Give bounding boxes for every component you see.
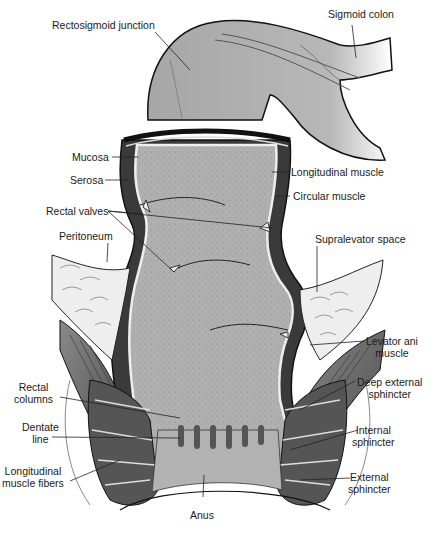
label-mucosa: Mucosa — [72, 151, 109, 163]
label-external-sphincter: External sphincter — [348, 471, 391, 495]
label-sigmoid-colon: Sigmoid colon — [328, 8, 394, 20]
label-peritoneum: Peritoneum — [59, 230, 113, 242]
label-serosa: Serosa — [70, 174, 103, 186]
label-anus: Anus — [190, 509, 214, 521]
label-longitudinal-muscle-fibers: Longitudinal muscle fibers — [2, 465, 64, 489]
label-dentate-line: Dentate line — [22, 421, 59, 445]
rectum-anatomy-diagram: Rectosigmoid junction Sigmoid colon Muco… — [0, 0, 436, 533]
sigmoid-colon — [148, 21, 392, 161]
anatomy-illustration — [0, 0, 436, 533]
label-longitudinal-muscle: Longitudinal muscle — [291, 166, 384, 178]
label-rectosigmoid-junction: Rectosigmoid junction — [52, 19, 155, 31]
label-rectal-valves: Rectal valves — [46, 205, 108, 217]
label-levator-ani-muscle: Levator ani muscle — [366, 335, 418, 359]
label-internal-sphincter: Internal sphincter — [352, 424, 395, 448]
label-supralevator-space: Supralevator space — [315, 233, 405, 245]
label-deep-external-sphincter: Deep external sphincter — [357, 376, 422, 400]
label-rectal-columns: Rectal columns — [14, 381, 53, 405]
label-circular-muscle: Circular muscle — [293, 190, 365, 202]
